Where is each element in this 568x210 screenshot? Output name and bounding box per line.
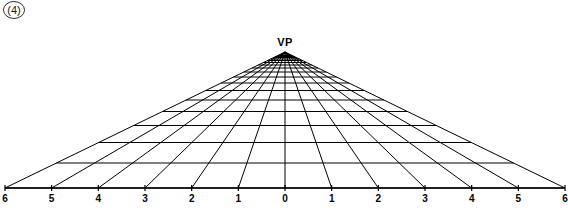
axis-tick-label: 6: [562, 193, 568, 204]
axis-tick-label: 3: [422, 193, 428, 204]
vanishing-point-label: VP: [277, 36, 293, 48]
axis-tick-label: 6: [2, 193, 8, 204]
axis-tick-label: 4: [469, 193, 475, 204]
grid-lines-layer: [5, 52, 565, 188]
axis-tick-label: 0: [282, 193, 288, 204]
figure-number-label: (4): [7, 4, 20, 16]
axis-tick-label: 2: [376, 193, 382, 204]
axis-tick-label: 4: [96, 193, 102, 204]
axis-tick-label: 3: [142, 193, 148, 204]
axis-tick-label: 1: [329, 193, 335, 204]
radial-line: [285, 52, 565, 188]
radial-line: [5, 52, 285, 188]
perspective-grid-figure: (4) VP 6543210123456: [0, 0, 568, 210]
axis-tick-label: 2: [189, 193, 195, 204]
axis-tick-label: 5: [516, 193, 522, 204]
axis-tick-label: 1: [236, 193, 242, 204]
perspective-grid-svg: (4) VP 6543210123456: [0, 0, 568, 210]
axis-tick-label: 5: [49, 193, 55, 204]
figure-number-badge: (4): [4, 2, 25, 19]
